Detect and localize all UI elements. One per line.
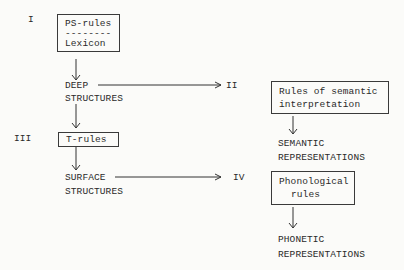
phonological-box-line2: rules — [279, 189, 354, 201]
semantic-box-line2: interpretation — [279, 99, 388, 111]
surface-structures-line1: SURFACE — [65, 172, 106, 183]
stage-numeral-i: I — [28, 14, 34, 25]
separator-dashes: -------- — [65, 29, 119, 38]
semantic-representations-line2: REPRESENTATIONS — [278, 152, 365, 163]
semantic-interpretation-box: Rules of semantic interpretation — [271, 81, 389, 114]
deep-structures-line2: STRUCTURES — [65, 93, 123, 104]
t-rules-box: T-rules — [58, 132, 119, 147]
stage-numeral-iv: IV — [233, 172, 245, 183]
semantic-box-line1: Rules of semantic — [279, 85, 388, 99]
phonetic-representations-line1: PHONETIC — [278, 234, 324, 245]
surface-structures-line2: STRUCTURES — [65, 186, 123, 197]
semantic-representations-line1: SEMANTIC — [278, 138, 324, 149]
phonological-rules-box: Phonological rules — [271, 171, 355, 205]
phonological-box-line1: Phonological — [279, 175, 354, 189]
phonetic-representations-line2: REPRESENTATIONS — [278, 249, 365, 260]
deep-structures-line1: DEEP — [65, 80, 88, 91]
lexicon-label: Lexicon — [65, 38, 119, 49]
t-rules-label: T-rules — [66, 134, 118, 145]
stage-numeral-iii: III — [14, 133, 31, 144]
stage-numeral-ii: II — [226, 80, 238, 91]
base-component-box: PS-rules -------- Lexicon — [57, 14, 120, 52]
